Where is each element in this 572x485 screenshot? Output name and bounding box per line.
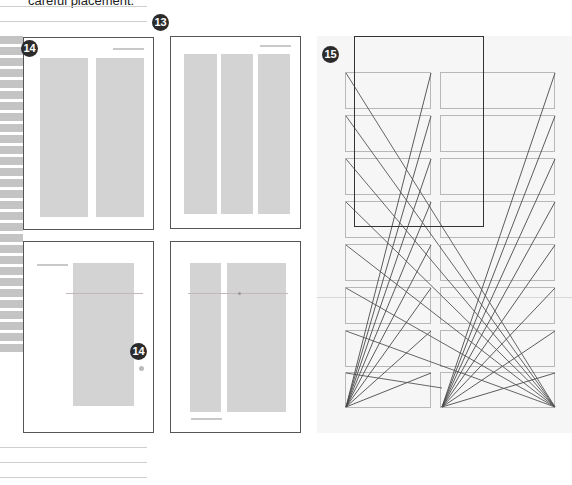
right-fan-lines bbox=[442, 73, 555, 407]
cross-diagonal-lines bbox=[346, 73, 555, 407]
text-rule bbox=[0, 447, 147, 448]
grid-diagram bbox=[0, 0, 572, 485]
text-rule bbox=[0, 462, 147, 463]
overlay-frame bbox=[355, 37, 484, 227]
badge-15: 15 bbox=[322, 46, 339, 63]
text-rule bbox=[0, 477, 147, 478]
